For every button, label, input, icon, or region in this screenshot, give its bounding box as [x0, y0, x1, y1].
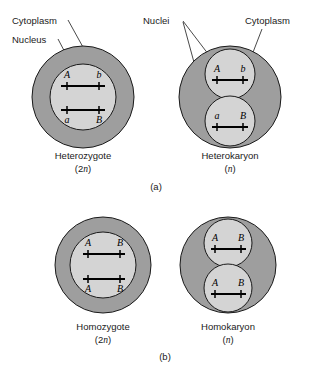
- allele-label: B: [96, 114, 102, 125]
- cytoplasm-label-left: Cytoplasm: [12, 15, 57, 26]
- panel-label-a: (a): [150, 181, 162, 192]
- ploidy-heterokaryon: (n): [224, 163, 235, 174]
- caption-homokaryon: Homokaryon: [201, 321, 255, 332]
- genetics-diagram: Cytoplasm Nucleus Nuclei Cytoplasm A b a…: [0, 0, 313, 366]
- allele-label: B: [240, 110, 246, 121]
- allele-label: B: [117, 283, 123, 294]
- allele-label: A: [211, 277, 219, 288]
- nucleus-heterokaryon-upper: [205, 49, 255, 99]
- nucleus-homozygote: [70, 232, 136, 298]
- ploidy-homozygote: (2n): [95, 334, 111, 345]
- allele-label: A: [213, 63, 221, 74]
- nucleus-label-left: Nucleus: [12, 34, 47, 45]
- allele-label: b: [241, 63, 246, 74]
- ploidy-heterozygote: (2n): [75, 163, 91, 174]
- nucleus-heterokaryon-lower: [205, 96, 255, 146]
- caption-heterozygote: Heterozygote: [55, 150, 112, 161]
- ploidy-homokaryon: (n): [222, 334, 233, 345]
- allele-label: a: [65, 114, 70, 125]
- allele-label: B: [117, 237, 123, 248]
- allele-label: A: [84, 237, 92, 248]
- caption-homozygote: Homozygote: [76, 321, 129, 332]
- allele-label: B: [238, 232, 244, 243]
- panel-label-b: (b): [159, 351, 171, 362]
- nucleus-homokaryon-upper: [204, 219, 252, 267]
- nuclei-label-right: Nuclei: [143, 15, 169, 26]
- allele-label: B: [238, 277, 244, 288]
- cytoplasm-label-right: Cytoplasm: [245, 15, 290, 26]
- allele-label: b: [97, 69, 102, 80]
- nucleus-heterozygote: [50, 64, 116, 130]
- allele-label: A: [63, 69, 71, 80]
- nucleus-homokaryon-lower: [204, 264, 252, 312]
- allele-label: A: [84, 283, 92, 294]
- caption-heterokaryon: Heterokaryon: [201, 150, 258, 161]
- allele-label: a: [215, 110, 220, 121]
- allele-label: A: [211, 232, 219, 243]
